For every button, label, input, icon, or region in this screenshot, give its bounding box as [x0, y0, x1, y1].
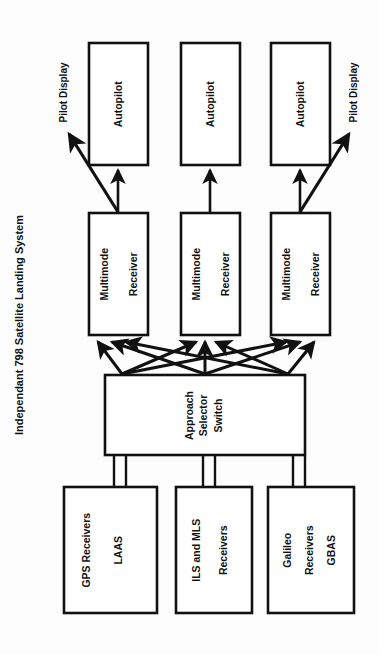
approach-selector-switch-box	[105, 375, 305, 455]
autopilot-box-right	[271, 43, 330, 165]
source-box-ils-mls	[176, 487, 252, 613]
arrow-asw-to-mmr-c-l	[112, 342, 205, 374]
multimode-receiver-box-center	[181, 213, 240, 335]
autopilot-box-center	[181, 43, 240, 165]
source-box-galileo	[268, 487, 354, 613]
multimode-receiver-box-left	[89, 213, 148, 335]
source-box-gps	[64, 487, 157, 613]
arrow-asw-to-mmr-r-r	[288, 342, 314, 374]
arrow-asw-to-mmr-l-l	[98, 342, 122, 374]
diagram-canvas: Independant 798 Satellite Landing System…	[0, 0, 379, 654]
autopilot-box-left	[89, 43, 148, 165]
multimode-receiver-box-right	[271, 213, 330, 335]
diagram-vector-layer	[0, 0, 379, 654]
arrow-asw-to-mmr-r-c	[216, 342, 288, 374]
